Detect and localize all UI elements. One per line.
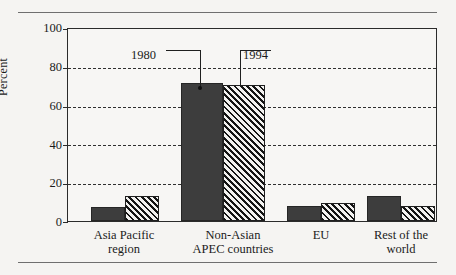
y-tick-label-80: 80 (22, 61, 62, 74)
annotation-1994: 1994 (243, 49, 268, 62)
bar-1994-eu (321, 203, 355, 221)
y-tick-mark-0 (63, 222, 68, 223)
category-label-line-2: APEC countries (157, 242, 309, 256)
y-tick-label-0: 0 (22, 216, 62, 229)
leader-line-1980-vertical (200, 50, 201, 88)
bar-1980-asia-pacific-region (91, 207, 125, 221)
y-tick-label-60: 60 (22, 100, 62, 113)
category-label-line-2: world (345, 242, 456, 256)
figure: Percent 100 80 60 40 20 0 (0, 0, 456, 275)
bar-1994-asia-pacific-region (125, 196, 159, 221)
gridline-80 (68, 68, 436, 69)
y-tick-label-40: 40 (22, 139, 62, 152)
y-tick-label-20: 20 (22, 177, 62, 190)
leader-dot-1980 (198, 86, 202, 90)
annotation-1980: 1980 (131, 49, 156, 62)
figure-rule-bottom (18, 262, 437, 263)
y-axis-title: Percent (0, 58, 11, 96)
bar-1980-rest-of-the-world (367, 196, 401, 221)
figure-rule-top (18, 12, 437, 13)
leader-line-1980-horizontal (166, 50, 200, 51)
bar-1980-non-asian-apec-countries (181, 83, 223, 221)
y-tick-mark-100 (63, 29, 68, 30)
bar-1994-rest-of-the-world (401, 206, 435, 222)
y-tick-label-100: 100 (22, 22, 62, 35)
leader-line-1994-vertical (240, 50, 241, 87)
category-label-line-1: Rest of the (345, 228, 456, 242)
bar-1994-non-asian-apec-countries (223, 85, 265, 221)
bar-1980-eu (287, 206, 321, 222)
category-label-rest-of-the-world: Rest of the world (345, 228, 456, 256)
